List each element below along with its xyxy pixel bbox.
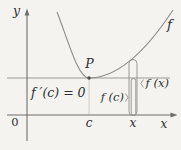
- derivative-equation: f ′(c) = 0: [30, 85, 86, 100]
- f-of-x-label: f (x): [145, 76, 169, 90]
- point-p-label: P: [84, 56, 94, 71]
- y-axis-label: y: [12, 3, 21, 18]
- point-p-dot: [87, 76, 90, 79]
- c-coordinate-label: c: [86, 116, 93, 130]
- origin-label: 0: [11, 115, 18, 129]
- x-coordinate-label: x: [130, 116, 137, 130]
- math-diagram: y x 0 f P c x f ′(c) = 0 f (c) f (x): [0, 0, 181, 150]
- x-axis-label: x: [161, 117, 168, 131]
- f-of-c-label: f (c): [100, 90, 124, 104]
